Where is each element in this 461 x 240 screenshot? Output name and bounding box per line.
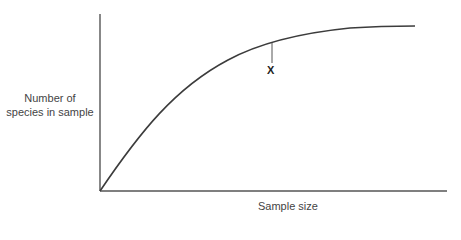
marker-x-label: X bbox=[267, 64, 274, 76]
y-axis-label-line1: Number of bbox=[4, 91, 96, 105]
x-axis-label: Sample size bbox=[258, 199, 318, 213]
y-axis-label-line2: species in sample bbox=[4, 105, 96, 119]
species-curve bbox=[100, 26, 415, 191]
y-axis-label: Number of species in sample bbox=[4, 91, 96, 119]
